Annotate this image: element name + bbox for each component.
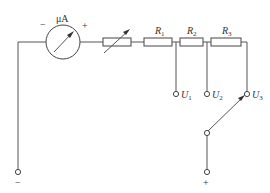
meter-plus-label: + [82,20,88,31]
tap-u2-terminal[interactable] [204,91,209,96]
tap-u3-label: U3 [252,89,263,102]
resistor-r3 [211,38,241,46]
resistor-r3-label: R3 [221,25,232,38]
meter-minus-label: − [40,19,46,30]
meter-unit-label: μA [56,13,69,24]
microammeter: μA − + [40,13,88,59]
switch-arrow-icon [238,95,245,101]
rheostat-body [103,38,131,46]
rheostat[interactable] [103,29,131,53]
tap-u2-label: U2 [212,89,223,102]
switch-blade [208,97,243,131]
tap-u3-terminal[interactable] [244,91,249,96]
negative-terminal-label: − [15,177,21,188]
positive-terminal[interactable] [204,169,209,174]
resistor-r2-label: R2 [186,25,197,38]
resistor-r2 [180,38,203,46]
resistor-r1 [144,38,172,46]
wire-after-r3 [241,42,247,91]
switch-pivot [204,130,209,135]
tap-u1-label: U1 [181,89,192,102]
positive-terminal-label: + [203,177,209,188]
resistor-r1-label: R1 [154,25,165,38]
multirange-voltmeter-circuit: − μA − + R1 R2 R3 U1 [0,0,270,193]
negative-terminal[interactable] [15,169,20,174]
tap-u1-terminal[interactable] [173,91,178,96]
range-selector-switch[interactable] [204,95,245,136]
